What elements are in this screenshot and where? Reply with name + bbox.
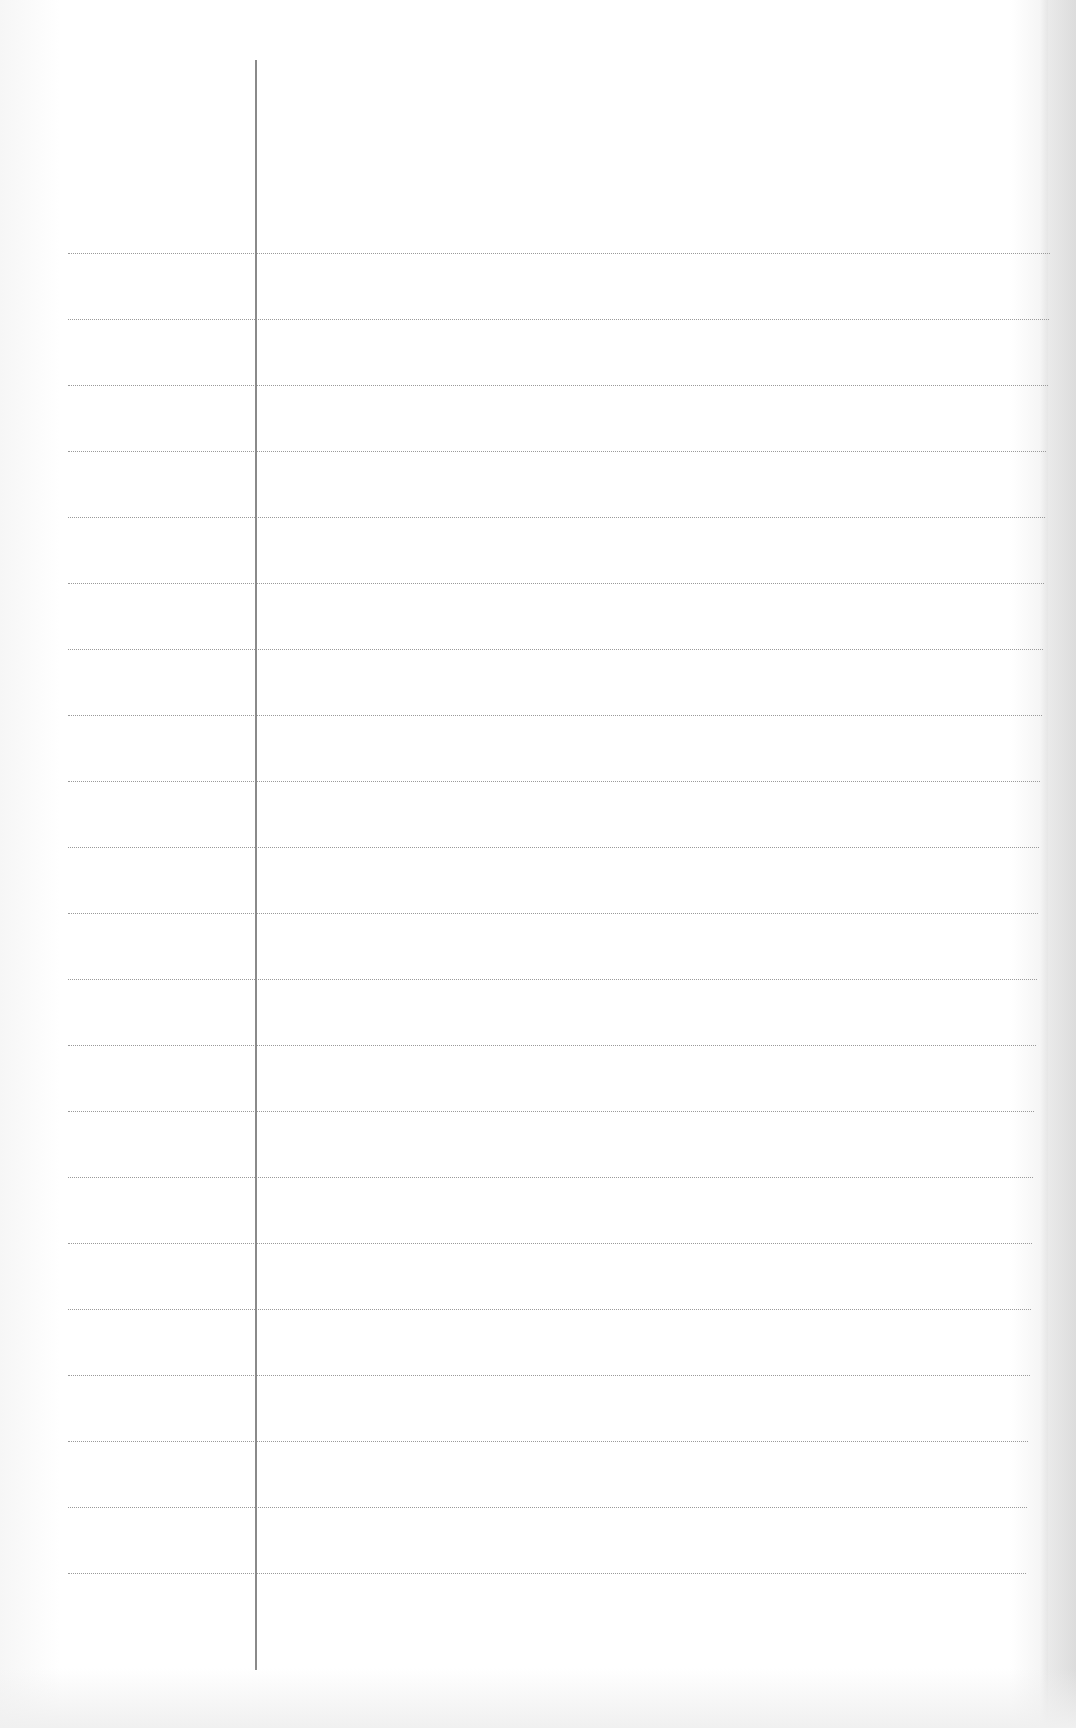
ruled-line	[68, 1507, 1027, 1508]
ruled-line	[68, 979, 1037, 980]
ruled-line	[68, 1177, 1033, 1178]
page-edge-shadow	[1048, 0, 1076, 1728]
ruled-line	[68, 1111, 1034, 1112]
ruled-line	[68, 1375, 1030, 1376]
ruled-line	[68, 253, 1050, 254]
ruled-line	[68, 517, 1045, 518]
ruled-line	[68, 1573, 1026, 1574]
ruled-line	[68, 451, 1046, 452]
ruled-line	[68, 715, 1042, 716]
ruled-line	[68, 847, 1039, 848]
ruled-line	[68, 1045, 1036, 1046]
ruled-line	[68, 781, 1040, 782]
ruled-line	[68, 1441, 1028, 1442]
lined-paper-sheet	[0, 0, 1048, 1728]
ruled-line	[68, 583, 1044, 584]
ruled-line	[68, 649, 1043, 650]
ruled-line	[68, 1243, 1032, 1244]
bottom-edge	[0, 1668, 1076, 1728]
ruled-line	[68, 1309, 1031, 1310]
ruled-line	[68, 319, 1049, 320]
ruled-line	[68, 385, 1048, 386]
ruled-line	[68, 913, 1038, 914]
margin-line	[255, 60, 257, 1670]
